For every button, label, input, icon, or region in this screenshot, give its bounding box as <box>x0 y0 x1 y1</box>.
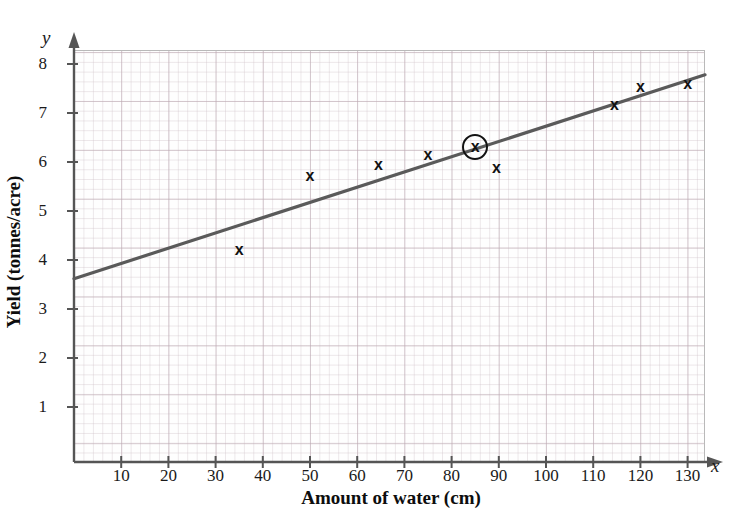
y-tick-label: 8 <box>39 54 48 74</box>
x-axis-title: Amount of water (cm) <box>301 487 481 509</box>
x-tick-label: 110 <box>581 466 606 486</box>
x-tick-label: 100 <box>533 466 559 486</box>
x-tick-label: 30 <box>207 466 224 486</box>
data-point: x <box>492 160 501 176</box>
y-axis-symbol: y <box>42 27 50 49</box>
x-tick-label: 50 <box>302 466 319 486</box>
data-point: x <box>683 76 692 92</box>
y-tick-label: 2 <box>39 348 48 368</box>
x-tick-label: 80 <box>443 466 460 486</box>
y-tick-label: 5 <box>39 201 48 221</box>
y-axis-title: Yield (tonnes/acre) <box>3 176 25 329</box>
x-tick-label: 10 <box>113 466 130 486</box>
x-tick-label: 90 <box>490 466 507 486</box>
data-point: x <box>306 168 315 184</box>
highlighted-point-circle <box>462 134 488 160</box>
x-tick-label: 70 <box>396 466 413 486</box>
data-point: x <box>235 242 244 258</box>
y-tick-label: 7 <box>39 103 48 123</box>
y-tick-label: 4 <box>39 250 48 270</box>
data-point: x <box>636 79 645 95</box>
x-tick-label: 20 <box>160 466 177 486</box>
chart-canvas: 10 20 30 40 50 60 70 80 90 100 110 120 1… <box>0 0 735 532</box>
y-tick-label: 6 <box>39 152 48 172</box>
x-tick-label: 130 <box>675 466 701 486</box>
x-tick-label: 120 <box>628 466 654 486</box>
data-point: x <box>374 157 383 173</box>
data-point: x <box>610 97 619 113</box>
y-tick-label: 1 <box>39 397 48 417</box>
y-tick-label: 3 <box>39 299 48 319</box>
x-tick-label: 60 <box>349 466 366 486</box>
data-point: x <box>424 147 433 163</box>
x-tick-label: 40 <box>254 466 271 486</box>
x-axis-symbol: x <box>711 455 719 477</box>
